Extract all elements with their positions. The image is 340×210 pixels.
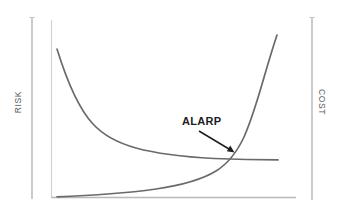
risk-curve xyxy=(57,49,278,160)
chart-canvas xyxy=(0,0,340,210)
alarp-arrow xyxy=(199,131,235,152)
alarp-annotation-label: ALARP xyxy=(182,115,221,127)
cost-axis-label: COST xyxy=(317,78,327,126)
left-axis xyxy=(30,18,35,200)
alarp-risk-cost-diagram: RISK COST ALARP xyxy=(0,0,340,210)
right-axis xyxy=(310,18,315,201)
cost-curve xyxy=(57,35,277,197)
risk-axis-label: RISK xyxy=(13,78,23,126)
